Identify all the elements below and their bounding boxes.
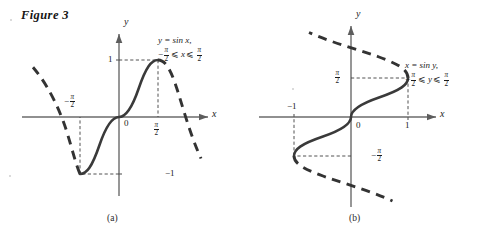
fraction-pi-over-2: π2: [197, 47, 203, 63]
panel-b-equation-annotation: x = sin y, −π2⩽y⩽π2: [405, 61, 450, 88]
equation-domain: −π2⩽y⩽π2: [405, 72, 450, 88]
panel-b-curve-dashed-upper: [309, 33, 408, 79]
panel-a-ytick-neg1: −1: [165, 168, 175, 178]
fraction-pi-over-2: π2: [377, 148, 383, 164]
panel-b-ytick-pi-over-2: π2: [334, 70, 341, 86]
fraction-pi-over-2: π2: [154, 122, 160, 138]
panel-b-y-axis-label: y: [356, 8, 360, 19]
panel-b-graph-sin-y: y x −1 0 1 π2 −π2 x = sin y, −π2⩽y⩽π2: [241, 0, 483, 231]
fraction-pi-over-2: π2: [335, 70, 341, 86]
fraction-pi-over-2: π2: [70, 94, 76, 110]
panel-a-equation-annotation: y = sin x, −π2⩽x⩽π2: [158, 36, 203, 63]
caption-a: (a): [107, 213, 118, 223]
panel-a-graph-sin-x: y x 1 0 −1 −π2 π2 y = sin x, −π2⩽x⩽π2: [0, 0, 241, 231]
panel-b-svg: [241, 0, 483, 231]
panel-a-curve-dashed-left: [33, 67, 80, 174]
panel-a-svg: [0, 0, 241, 231]
panel-b-origin-label: 0: [356, 120, 361, 130]
panel-a-ytick-1: 1: [108, 54, 113, 64]
caption-b: (b): [349, 213, 360, 223]
panel-a-curve-dashed-right: [158, 60, 201, 159]
panel-a-xtick-neg-pi-over-2: −π2: [64, 94, 76, 110]
figure-container: Figure 3: [0, 0, 483, 231]
equation-text: y = sin x,: [158, 35, 192, 45]
panel-b-ytick-neg-pi-over-2: −π2: [371, 148, 383, 164]
panel-a-x-axis-label: x: [212, 108, 216, 119]
equation-domain: −π2⩽x⩽π2: [158, 47, 203, 63]
panel-b-axes: [259, 26, 436, 207]
panel-b-xtick-neg1: −1: [287, 101, 297, 111]
fraction-pi-over-2: π2: [444, 72, 450, 88]
fraction-pi-over-2: π2: [411, 72, 417, 88]
panel-b-x-axis-label: x: [440, 108, 444, 119]
panel-a-origin-label: 0: [124, 118, 129, 128]
panel-a-xtick-pi-over-2: π2: [153, 122, 160, 138]
fraction-pi-over-2: π2: [164, 47, 170, 63]
panel-a-y-axis-label: y: [124, 16, 128, 27]
equation-text: x = sin y,: [405, 60, 438, 70]
panel-b-xtick-1: 1: [405, 120, 410, 130]
minus-sign: −: [64, 96, 69, 106]
